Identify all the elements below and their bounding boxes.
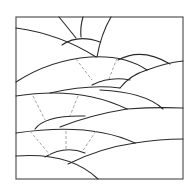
- hills-sun-drawing: [0, 0, 194, 192]
